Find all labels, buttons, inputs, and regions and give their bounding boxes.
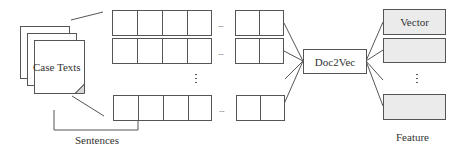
doc2vec-pipeline-diagram: Case Texts ... ... ... Sentences Doc2Vec xyxy=(0,0,464,152)
feature-vector-1: Vector xyxy=(383,9,446,35)
word-cell xyxy=(235,38,260,64)
word-cell xyxy=(137,10,163,36)
horizontal-ellipsis: ... xyxy=(219,105,224,114)
word-cell xyxy=(112,10,138,36)
vector-label: Vector xyxy=(400,16,429,28)
sentences-label: Sentences xyxy=(75,134,119,146)
word-cell xyxy=(236,95,261,121)
word-cell xyxy=(112,38,138,64)
word-cell xyxy=(187,10,212,36)
feature-label: Feature xyxy=(396,131,429,143)
horizontal-ellipsis: ... xyxy=(218,20,223,29)
word-cell xyxy=(162,10,188,36)
word-cell xyxy=(259,10,284,36)
word-cell xyxy=(137,38,163,64)
case-texts-label: Case Texts xyxy=(33,61,81,73)
word-cell xyxy=(162,38,188,64)
vertical-ellipsis-features xyxy=(416,74,418,86)
word-cell xyxy=(163,95,189,121)
word-cell xyxy=(235,10,260,36)
doc2vec-model-box: Doc2Vec xyxy=(303,49,367,74)
word-cell xyxy=(187,38,212,64)
word-cell xyxy=(260,95,285,121)
word-cell xyxy=(259,38,284,64)
feature-vector-2 xyxy=(383,38,446,63)
word-cell xyxy=(113,95,139,121)
horizontal-ellipsis: ... xyxy=(218,48,223,57)
word-cell xyxy=(188,95,212,121)
doc2vec-label: Doc2Vec xyxy=(315,56,355,68)
vertical-ellipsis-sentences xyxy=(195,74,197,86)
feature-vector-3 xyxy=(383,94,446,120)
word-cell xyxy=(138,95,164,121)
